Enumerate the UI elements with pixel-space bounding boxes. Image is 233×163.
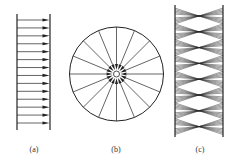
radial-spoke xyxy=(83,41,109,67)
arrowhead-icon xyxy=(43,90,50,93)
arrowhead-icon xyxy=(107,73,113,76)
radial-spoke xyxy=(124,81,150,107)
arrowhead-icon xyxy=(43,121,50,124)
arrowhead-icon xyxy=(43,106,50,109)
radial-spoke xyxy=(120,83,134,117)
label-b: (b) xyxy=(111,145,121,154)
arrowhead-icon xyxy=(43,74,50,77)
label-c: (c) xyxy=(196,145,205,154)
radial-spoke xyxy=(120,31,134,65)
radial-spoke xyxy=(126,56,160,70)
panel-c-crossing-fans xyxy=(175,5,223,137)
arrowhead-icon xyxy=(43,50,50,53)
arrowhead-icon xyxy=(121,73,127,76)
radial-spoke xyxy=(73,56,107,70)
arrowhead-icon xyxy=(43,66,50,69)
radial-spoke xyxy=(126,78,160,92)
label-a: (a) xyxy=(30,145,39,154)
arrowhead-icon xyxy=(43,18,50,21)
arrowhead-icon xyxy=(43,26,50,29)
panel-b-radial-flow xyxy=(70,27,164,121)
arrowhead-icon xyxy=(43,42,50,45)
arrowhead-icon xyxy=(43,98,50,101)
radial-spoke xyxy=(83,81,109,107)
arrowhead-icon xyxy=(43,34,50,37)
arrowhead-icon xyxy=(43,82,50,85)
radial-spoke xyxy=(124,41,150,67)
inner-circle xyxy=(114,71,120,77)
arrowhead-icon xyxy=(115,78,118,84)
arrowhead-icon xyxy=(43,58,50,61)
radial-spoke xyxy=(99,31,113,65)
arrowhead-icon xyxy=(43,113,50,116)
arrowhead-icon xyxy=(115,64,118,70)
radial-spoke xyxy=(99,83,113,117)
panel-a-parallel-flow xyxy=(17,14,50,130)
radial-spoke xyxy=(73,78,107,92)
figure-canvas: (a) (b) (c) xyxy=(0,0,233,163)
